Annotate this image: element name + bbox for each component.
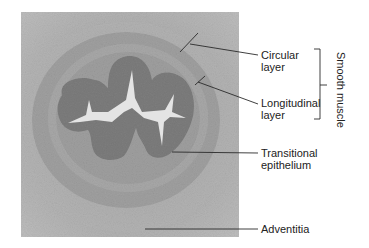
label-line: epithelium <box>261 159 317 171</box>
label-line: Transitional <box>261 147 317 159</box>
label-adventitia: Adventitia <box>261 223 309 235</box>
label-smooth-muscle: Smooth muscle <box>335 52 347 128</box>
label-transitional-epithelium: Transitional epithelium <box>261 147 317 171</box>
micrograph <box>16 12 239 237</box>
label-line: Adventitia <box>261 223 309 235</box>
label-line: layer <box>261 109 320 121</box>
label-line: Circular <box>261 49 299 61</box>
label-line: layer <box>261 61 299 73</box>
ureter-diagram <box>0 0 369 248</box>
label-longitudinal-layer: Longitudinal layer <box>261 97 320 121</box>
label-circular-layer: Circular layer <box>261 49 299 73</box>
label-line: Longitudinal <box>261 97 320 109</box>
